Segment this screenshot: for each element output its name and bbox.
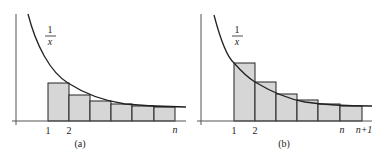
curve-label-numerator-a: 1 [48,24,53,35]
tick-label-2-a: 2 [67,125,72,136]
tick-label-1-a: 1 [46,125,51,136]
curve-label-denominator-a: x [47,36,53,47]
caption-a: (a) [74,138,85,150]
tick-label-n-plus-1-b: n+1 [356,124,373,135]
bar [318,104,340,121]
bar [48,83,69,121]
bars-b [234,63,362,121]
tick-label-1-b: 1 [232,125,237,136]
tick-label-n-a: n [173,124,178,135]
bar [111,104,132,121]
panel-a: 1 x 1 2 n (a) [12,14,186,150]
bar [276,94,297,121]
curve-label-denominator-b: x [234,36,240,47]
bar [340,106,362,121]
bar [154,107,175,121]
bar [90,101,111,121]
caption-b: (b) [278,138,290,150]
figure-canvas: 1 x 1 2 n (a) 1 x 1 2 n n+1 [0,0,384,158]
bar [69,95,90,121]
curve-label-numerator-b: 1 [235,24,240,35]
bar [132,106,154,121]
tick-label-n-b: n [340,124,345,135]
tick-label-2-b: 2 [253,125,258,136]
bar [234,63,255,121]
panel-b: 1 x 1 2 n n+1 (b) [197,14,372,150]
